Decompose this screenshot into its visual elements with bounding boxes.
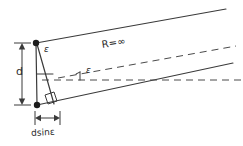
mid-angle-indicator-barb	[76, 72, 80, 74]
label-epsilon-top: ε	[44, 45, 49, 54]
top-vertex-dot	[33, 40, 39, 46]
d-dimension-arrowhead-bottom	[19, 99, 25, 106]
bottom-vertex-dot	[34, 102, 40, 108]
dsin-dimension-arrowhead-left	[35, 115, 41, 121]
wavefront-normal-dashed-line	[58, 46, 236, 78]
label-path-difference: dsinε	[31, 128, 55, 138]
d-dimension-arrowhead-top	[19, 43, 25, 50]
label-epsilon-mid: ε	[86, 66, 91, 75]
upper-ray-line	[36, 9, 226, 43]
diagram-vector-layer	[0, 0, 243, 146]
lower-ray-line	[37, 63, 233, 105]
label-baseline-d: d	[16, 66, 23, 77]
diagram-canvas: ε ε R=∞ d dsinε	[0, 0, 243, 146]
dsin-dimension-arrowhead-right	[54, 115, 60, 121]
